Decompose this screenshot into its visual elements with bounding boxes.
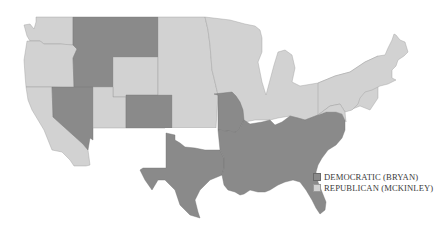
legend-label-democratic: DEMOCRATIC (BRYAN) (324, 172, 418, 183)
state-oregon (24, 41, 77, 88)
map-legend: DEMOCRATIC (BRYAN) REPUBLICAN (MCKINLEY) (313, 172, 433, 193)
state-colorado (126, 95, 172, 128)
legend-item-republican: REPUBLICAN (MCKINLEY) (313, 183, 433, 194)
legend-item-democratic: DEMOCRATIC (BRYAN) (313, 172, 433, 183)
us-map (0, 0, 446, 235)
legend-label-republican: REPUBLICAN (MCKINLEY) (324, 183, 433, 194)
democratic-swatch-icon (313, 173, 321, 181)
state-wyoming (113, 57, 158, 97)
republican-swatch-icon (313, 184, 321, 192)
